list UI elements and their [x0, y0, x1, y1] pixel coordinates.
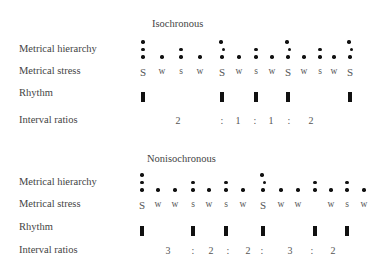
stress-label: S: [139, 199, 145, 211]
label-metrical-stress: Metrical stress: [19, 65, 81, 76]
stress-label: w: [331, 66, 338, 76]
stress-label: s: [345, 199, 349, 209]
hierarchy-dot: [173, 188, 176, 191]
hierarchy-dot: [254, 48, 257, 51]
hierarchy-dot: [237, 55, 240, 58]
ratio-value: 2: [246, 245, 251, 256]
stress-label: w: [269, 66, 276, 76]
hierarchy-dot: [285, 40, 288, 43]
stress-label: w: [301, 66, 308, 76]
stress-label: S: [285, 66, 291, 78]
rhythm-beat-bar: [220, 92, 224, 102]
ratio-separator: :: [261, 245, 264, 256]
ratio-value: 2: [209, 245, 214, 256]
hierarchy-dot: [198, 55, 201, 58]
stress-label: w: [240, 199, 247, 209]
label-interval-ratios: Interval ratios: [19, 244, 78, 255]
label-interval-ratios: Interval ratios: [19, 114, 78, 125]
hierarchy-dot: [347, 40, 350, 43]
stress-label: S: [347, 66, 353, 78]
stress-label: S: [140, 66, 146, 78]
rhythm-beat-bar: [261, 226, 265, 236]
ratio-separator: :: [192, 245, 195, 256]
hierarchy-dot: [160, 55, 163, 58]
panel-title: Nonisochronous: [147, 153, 216, 164]
hierarchy-dot: [254, 55, 257, 58]
rhythm-beat-bar: [348, 92, 352, 102]
label-rhythm: Rhythm: [19, 87, 53, 98]
hierarchy-dot: [207, 188, 210, 191]
ratio-value: 3: [288, 245, 293, 256]
stress-label: w: [159, 66, 166, 76]
ratio-value: 2: [309, 115, 314, 126]
rhythm-beat-bar: [313, 226, 317, 236]
stress-label: s: [318, 66, 322, 76]
stress-label: w: [278, 199, 285, 209]
ratio-value: 1: [269, 115, 274, 126]
hierarchy-dot: [179, 48, 182, 51]
hierarchy-dot: [140, 173, 143, 176]
ratio-separator: :: [311, 245, 314, 256]
stress-label: s: [191, 199, 195, 209]
hierarchy-dot: [332, 55, 335, 58]
hierarchy-dot: [141, 55, 144, 58]
hierarchy-dot: [261, 188, 264, 191]
hierarchy-dot: [318, 48, 321, 51]
hierarchy-dot: [179, 55, 182, 58]
rhythm-beat-bar: [286, 92, 290, 102]
hierarchy-dot: [345, 181, 348, 184]
hierarchy-dot: [140, 181, 143, 184]
hierarchy-dot: [329, 188, 332, 191]
hierarchy-dot: [224, 181, 227, 184]
rhythm-beat-bar: [141, 92, 145, 102]
hierarchy-dot: [302, 55, 305, 58]
hierarchy-dot: [219, 40, 222, 43]
hierarchy-dot: [270, 55, 273, 58]
ratio-value: 2: [176, 115, 181, 126]
rhythm-beat-bar: [345, 226, 349, 236]
ratio-separator: :: [227, 245, 230, 256]
stress-label: w: [155, 199, 162, 209]
hierarchy-dot: [318, 55, 321, 58]
stress-label: s: [179, 66, 183, 76]
hierarchy-dot: [350, 48, 353, 51]
label-rhythm: Rhythm: [19, 221, 53, 232]
panel-title: Isochronous: [152, 18, 203, 29]
stress-label: w: [361, 199, 368, 209]
ratio-value: 2: [331, 245, 336, 256]
hierarchy-dot: [141, 48, 144, 51]
stress-label: s: [224, 199, 228, 209]
stress-label: w: [295, 199, 302, 209]
hierarchy-dot: [156, 188, 159, 191]
rhythm-beat-bar: [140, 226, 144, 236]
hierarchy-dot: [362, 188, 365, 191]
ratio-value: 1: [236, 115, 241, 126]
ratio-value: 3: [166, 245, 171, 256]
label-metrical-hierarchy: Metrical hierarchy: [19, 176, 97, 187]
hierarchy-dot: [313, 181, 316, 184]
rhythm-beat-bar: [224, 226, 228, 236]
ratio-separator: :: [288, 115, 291, 126]
hierarchy-dot: [288, 48, 291, 51]
hierarchy-dot: [313, 188, 316, 191]
label-metrical-hierarchy: Metrical hierarchy: [19, 43, 97, 54]
rhythm-beat-bar: [254, 92, 258, 102]
stress-label: w: [206, 199, 213, 209]
hierarchy-dot: [191, 188, 194, 191]
stress-label: S: [260, 199, 266, 211]
rhythm-beat-bar: [191, 226, 195, 236]
hierarchy-dot: [191, 181, 194, 184]
hierarchy-dot: [260, 173, 263, 176]
hierarchy-dot: [279, 188, 282, 191]
hierarchy-dot: [241, 188, 244, 191]
ratio-separator: :: [254, 115, 257, 126]
hierarchy-dot: [263, 181, 266, 184]
stress-label: S: [219, 66, 225, 78]
hierarchy-dot: [296, 188, 299, 191]
hierarchy-dot: [286, 55, 289, 58]
hierarchy-dot: [222, 48, 225, 51]
stress-label: w: [197, 66, 204, 76]
hierarchy-dot: [224, 188, 227, 191]
hierarchy-dot: [140, 188, 143, 191]
stress-label: s: [254, 66, 258, 76]
